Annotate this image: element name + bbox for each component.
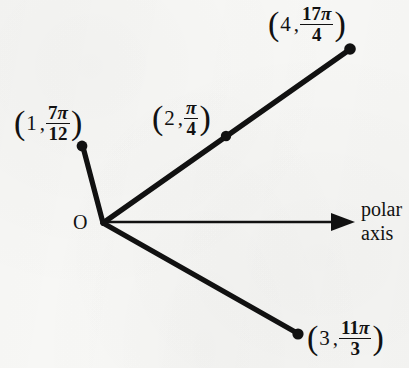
paren-close-1: ): [71, 109, 82, 137]
ray-to-point-3: [103, 223, 297, 333]
polar-diagram-figure: O polar axis ( 1 , 7π 12 ) ( 2 , π 4 ) (…: [0, 0, 409, 368]
fraction-numerator-2: π: [184, 98, 198, 119]
pi-symbol-4: π: [321, 3, 331, 24]
paren-close-2: ): [199, 104, 210, 132]
paren-close-4: ): [334, 10, 345, 38]
paren-open-4: (: [268, 10, 279, 38]
polar-axis-label-line2: axis: [361, 222, 409, 246]
point-dot-3: [292, 328, 303, 339]
origin-label: O: [73, 212, 87, 232]
fraction-denominator-3: 3: [348, 339, 362, 359]
fraction-numerator-4: 17π: [300, 4, 333, 25]
point-label-4: ( 4 , 17π 4 ): [268, 4, 346, 45]
radius-value-1: 1: [25, 113, 40, 134]
fraction-denominator-2: 4: [185, 119, 199, 139]
diagram-canvas: [0, 0, 409, 368]
angle-fraction-1: 7π 12: [46, 103, 70, 144]
pi-symbol-1: π: [58, 102, 68, 123]
fraction-denominator-4: 4: [310, 25, 324, 45]
paren-close-3: ): [372, 324, 383, 352]
angle-fraction-2: π 4: [184, 98, 198, 139]
fraction-numerator-3: 11π: [339, 318, 371, 339]
paren-open-1: (: [14, 109, 25, 137]
pi-symbol-3: π: [359, 317, 369, 338]
polar-axis-arrowhead: [331, 213, 355, 231]
comma-2: ,: [178, 108, 183, 129]
fraction-denominator-1: 12: [47, 124, 70, 144]
comma-4: ,: [294, 14, 299, 35]
fraction-numerator-1: 7π: [46, 103, 70, 124]
point-dot-2: [221, 131, 231, 141]
point-label-2: ( 2 , π 4 ): [152, 98, 211, 139]
comma-1: ,: [40, 113, 45, 134]
radius-value-4: 4: [279, 14, 294, 35]
angle-fraction-3: 11π 3: [339, 318, 371, 359]
point-label-3: ( 3 , 11π 3 ): [307, 318, 384, 359]
pi-symbol-2: π: [186, 97, 196, 118]
polar-axis-label: polar axis: [361, 198, 409, 245]
paren-open-2: (: [152, 104, 163, 132]
polar-axis-label-line1: polar: [361, 198, 409, 222]
paren-open-3: (: [307, 324, 318, 352]
point-label-1: ( 1 , 7π 12 ): [14, 103, 82, 144]
radius-value-3: 3: [318, 328, 333, 349]
point-dot-4: [344, 43, 356, 55]
angle-fraction-4: 17π 4: [300, 4, 333, 45]
radius-value-2: 2: [163, 108, 178, 129]
comma-3: ,: [333, 328, 338, 349]
